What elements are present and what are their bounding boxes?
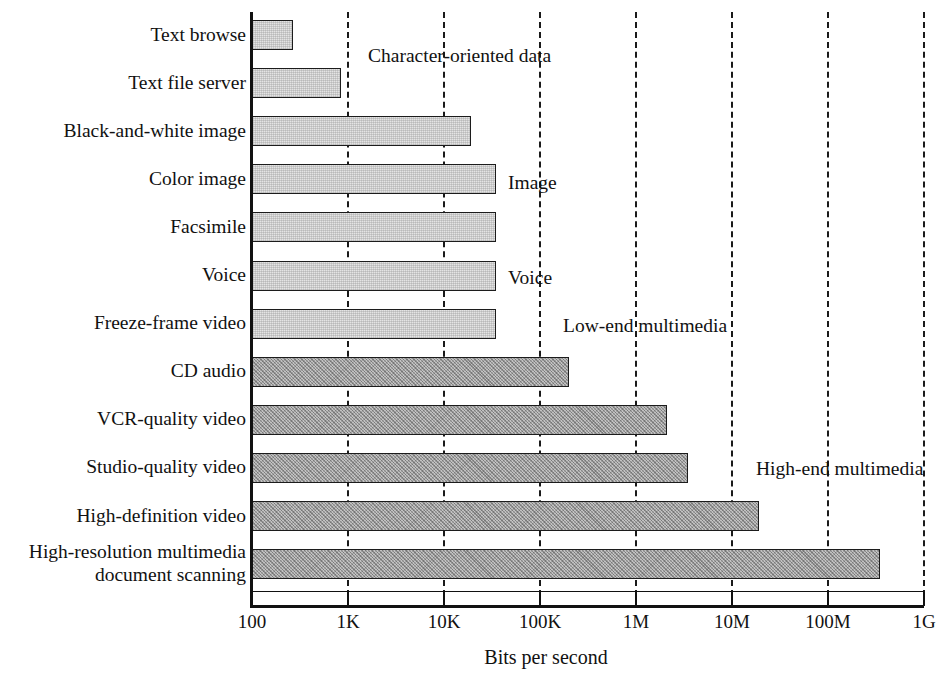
- category-label-black-and-white-image: Black-and-white image: [64, 119, 246, 142]
- x-tick-label-100m: 100M: [805, 611, 850, 633]
- bar-freeze-frame-video: [252, 309, 496, 339]
- x-axis-title: Bits per second: [0, 646, 952, 669]
- category-label-freeze-frame-video: Freeze-frame video: [94, 311, 246, 334]
- category-label-studio-quality-video: Studio-quality video: [86, 455, 246, 478]
- category-label-facsimile: Facsimile: [170, 215, 246, 238]
- category-label-line: Text browse: [150, 23, 246, 46]
- bar-cd-audio: [252, 357, 569, 387]
- bar-high-resolution-multimedia-document-scanning: [252, 549, 880, 579]
- category-label-line: Freeze-frame video: [94, 311, 246, 334]
- category-label-line: CD audio: [171, 359, 246, 382]
- x-axis-title-text: Bits per second: [484, 646, 607, 668]
- x-tick-label-100: 100: [238, 611, 267, 633]
- bar-black-and-white-image: [252, 116, 471, 146]
- bar-high-definition-video: [252, 501, 759, 531]
- bar-vcr-quality-video: [252, 405, 667, 435]
- category-label-line: Studio-quality video: [86, 455, 246, 478]
- x-axis-tick-strip: [252, 591, 924, 606]
- category-label-text-file-server: Text file server: [128, 71, 246, 94]
- annotation-low-end-multimedia: Low-end multimedia: [563, 315, 727, 337]
- category-label-line: Color image: [149, 167, 246, 190]
- bar-chart: 1001K10K100K1M10M100M1G Text browseText …: [0, 0, 952, 685]
- x-tick-label-10m: 10M: [714, 611, 750, 633]
- x-tick-label-1g: 1G: [912, 611, 935, 633]
- annotation-character-oriented-data: Character-oriented data: [368, 45, 551, 67]
- category-label-high-definition-video: High-definition video: [76, 504, 246, 527]
- bar-studio-quality-video: [252, 453, 688, 483]
- category-label-line: High-definition video: [76, 504, 246, 527]
- category-label-voice: Voice: [202, 263, 246, 286]
- category-label-line: Text file server: [128, 71, 246, 94]
- x-tick-label-10k: 10K: [428, 611, 461, 633]
- bar-text-file-server: [252, 68, 341, 98]
- category-label-text-browse: Text browse: [150, 23, 246, 46]
- bar-voice: [252, 261, 496, 291]
- category-label-line: Black-and-white image: [64, 119, 246, 142]
- annotation-voice: Voice: [508, 267, 552, 289]
- gridline-1g: [923, 12, 925, 606]
- category-label-line: document scanning: [29, 563, 246, 586]
- category-label-color-image: Color image: [149, 167, 246, 190]
- gridline-100m: [827, 12, 829, 606]
- annotation-image: Image: [508, 172, 557, 194]
- category-label-line: Facsimile: [170, 215, 246, 238]
- category-label-cd-audio: CD audio: [171, 359, 246, 382]
- bar-text-browse: [252, 20, 293, 50]
- y-axis-line: [250, 12, 253, 608]
- x-tick-label-100k: 100K: [519, 611, 561, 633]
- x-axis-line: [250, 605, 924, 608]
- annotation-high-end-multimedia: High-end multimedia: [756, 458, 923, 480]
- bar-color-image: [252, 164, 496, 194]
- category-label-line: Voice: [202, 263, 246, 286]
- category-label-line: VCR-quality video: [97, 407, 246, 430]
- category-label-vcr-quality-video: VCR-quality video: [97, 407, 246, 430]
- category-label-line: High-resolution multimedia: [29, 540, 246, 563]
- x-tick-label-1k: 1K: [336, 611, 359, 633]
- bar-facsimile: [252, 212, 496, 242]
- category-label-high-resolution-multimedia-document-scanning: High-resolution multimediadocument scann…: [29, 540, 246, 586]
- x-tick-label-1m: 1M: [623, 611, 649, 633]
